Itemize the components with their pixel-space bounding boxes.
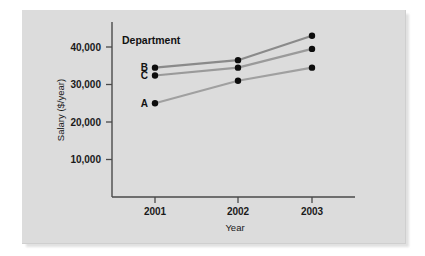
data-point-B-2001: [152, 64, 158, 70]
y-axis-ticks: [106, 47, 112, 160]
y-tick-label-30000: 30,000: [70, 79, 101, 90]
series-label-A: A: [141, 98, 148, 109]
y-axis-title: Salary ($/year): [55, 79, 66, 141]
x-tick-label-2002: 2002: [227, 206, 250, 217]
data-point-C-2003: [309, 46, 315, 52]
series-labels-group: BCA: [141, 62, 148, 109]
data-point-B-2003: [309, 33, 315, 39]
x-tick-label-2001: 2001: [144, 206, 167, 217]
series-label-C: C: [141, 70, 148, 81]
legend-title: Department: [122, 34, 181, 46]
data-point-C-2001: [152, 72, 158, 78]
y-tick-label-40000: 40,000: [70, 42, 101, 53]
data-point-A-2002: [235, 78, 241, 84]
y-tick-label-10000: 10,000: [70, 154, 101, 165]
x-axis-title: Year: [225, 222, 244, 233]
plot-container: 40,000 30,000 20,000 10,000 Salary ($/ye…: [0, 0, 425, 256]
data-point-A-2003: [309, 64, 315, 70]
x-tick-label-2003: 2003: [301, 206, 324, 217]
line-chart-svg: 40,000 30,000 20,000 10,000 Salary ($/ye…: [0, 0, 425, 256]
data-point-A-2001: [152, 100, 158, 106]
y-tick-label-20000: 20,000: [70, 117, 101, 128]
chart-figure: 40,000 30,000 20,000 10,000 Salary ($/ye…: [0, 0, 425, 256]
data-point-B-2002: [235, 57, 241, 63]
x-axis-ticks: [155, 197, 312, 203]
data-point-C-2002: [235, 64, 241, 70]
